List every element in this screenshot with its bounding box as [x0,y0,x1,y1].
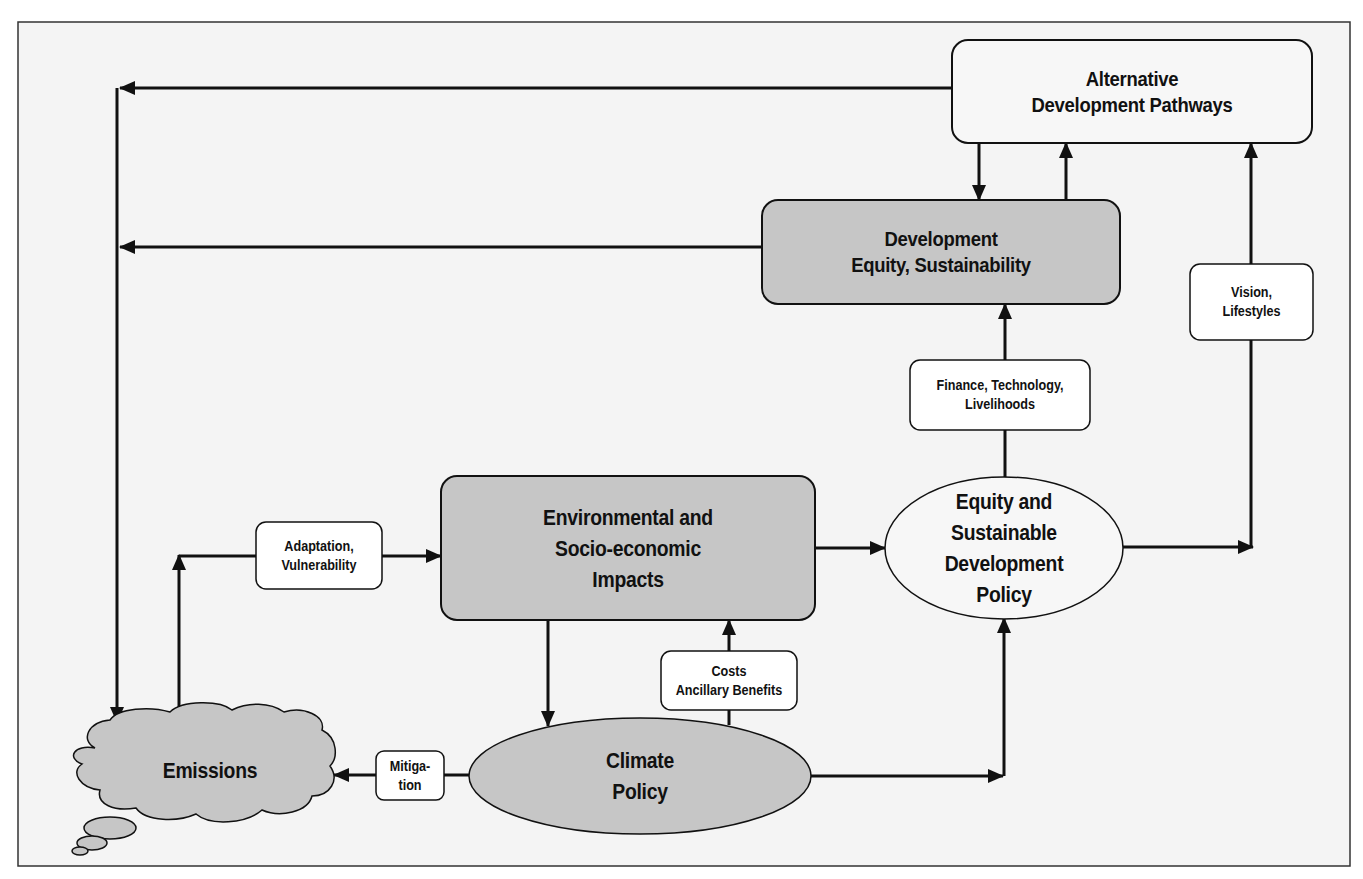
node-development-box [762,200,1120,304]
diagram-canvas: Alternative Development Pathways Develop… [0,0,1363,879]
edge-label-adaptation-box [256,522,382,589]
edge-label-finance-box [910,360,1090,430]
node-impacts-box [441,476,815,620]
edge-label-costs-box [661,651,797,710]
edge-label-vision-box [1190,264,1313,340]
edge-label-mitigation-box [376,751,444,800]
node-equity-policy-ellipse [885,477,1123,619]
node-climate-policy-ellipse [469,718,811,834]
diagram-graphics [0,0,1363,879]
node-alternative-pathways-box [952,40,1312,143]
